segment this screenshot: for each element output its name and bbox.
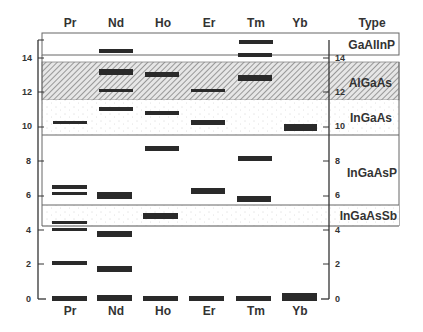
level-nd-2 xyxy=(97,266,132,272)
level-nd-14 xyxy=(99,49,133,53)
left-tick-8: 8 xyxy=(26,156,31,166)
right-tick-14: 14 xyxy=(335,53,345,63)
level-tm-15 xyxy=(239,40,273,44)
level-tm-14 xyxy=(238,53,272,57)
right-tick-4: 4 xyxy=(335,225,340,235)
level-ho-5 xyxy=(143,213,178,219)
level-pr-6a xyxy=(52,192,87,195)
left-tick-6: 6 xyxy=(26,190,31,200)
right-tick-6: 6 xyxy=(335,190,340,200)
level-er-10 xyxy=(191,120,225,125)
level-ho-0 xyxy=(143,296,178,301)
left-tick-10: 10 xyxy=(22,121,32,131)
level-yb-0 xyxy=(282,293,317,301)
level-pr-4a xyxy=(52,228,87,231)
type-ingaas: InGaAs xyxy=(330,111,392,125)
header-type: Type xyxy=(347,16,397,30)
level-tm-6 xyxy=(237,196,271,202)
level-er-6 xyxy=(191,188,225,194)
type-ingaasp: InGaAsP xyxy=(330,166,397,180)
header-tm: Tm xyxy=(236,16,276,30)
level-pr-10 xyxy=(53,121,87,124)
level-pr-6b xyxy=(52,185,87,189)
level-ho-11 xyxy=(145,111,179,115)
footer-yb: Yb xyxy=(280,304,320,318)
type-gaalinp: GaAlInP xyxy=(330,38,395,52)
footer-nd: Nd xyxy=(96,304,136,318)
level-ho-9 xyxy=(145,146,179,151)
level-tm-0 xyxy=(236,296,271,301)
right-tick-8: 8 xyxy=(335,156,340,166)
level-er-0 xyxy=(189,296,224,301)
left-tick-0: 0 xyxy=(26,294,31,304)
level-nd-11 xyxy=(99,107,133,111)
footer-er: Er xyxy=(189,304,229,318)
level-pr-0 xyxy=(52,296,87,301)
level-nd-12 xyxy=(99,89,133,92)
header-pr: Pr xyxy=(50,16,90,30)
header-yb: Yb xyxy=(280,16,320,30)
header-ho: Ho xyxy=(143,16,183,30)
level-nd-4 xyxy=(97,231,132,237)
left-tick-14: 14 xyxy=(22,53,32,63)
header-nd: Nd xyxy=(96,16,136,30)
left-tick-12: 12 xyxy=(22,87,32,97)
type-ingaassb: InGaAsSb xyxy=(330,209,397,223)
level-pr-2 xyxy=(52,261,87,265)
level-pr-4b xyxy=(52,221,87,224)
level-yb-10 xyxy=(284,124,317,131)
level-tm-13 xyxy=(238,75,272,81)
footer-tm: Tm xyxy=(236,304,276,318)
footer-pr: Pr xyxy=(50,304,90,318)
header-er: Er xyxy=(189,16,229,30)
level-nd-0 xyxy=(97,295,132,301)
level-ho-13 xyxy=(145,72,179,77)
left-tick-2: 2 xyxy=(26,259,31,269)
level-tm-8 xyxy=(238,156,272,161)
level-nd-6 xyxy=(97,192,132,199)
footer-ho: Ho xyxy=(143,304,183,318)
level-er-12 xyxy=(191,89,225,92)
left-tick-4: 4 xyxy=(26,225,31,235)
level-nd-13 xyxy=(99,69,133,75)
right-tick-2: 2 xyxy=(335,259,340,269)
type-algaas: AlGaAs xyxy=(330,76,392,90)
right-tick-0: 0 xyxy=(335,294,340,304)
